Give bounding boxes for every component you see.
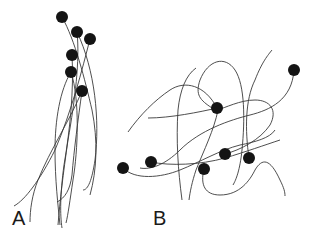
fiber-curve [57,91,82,202]
cell-body-dot [243,152,255,164]
fiber-curve [217,100,273,154]
panel-label-a: A [12,208,25,228]
cell-body-dot [211,102,223,114]
cell-body-dot [76,85,88,97]
cell-body-dot [117,162,129,174]
fiber-curve [77,32,97,190]
cell-body-dot [66,49,78,61]
neuron-diagram [0,0,310,236]
cell-body-dot [145,156,157,168]
cell-body-dot [198,163,210,175]
cell-body-dot [288,64,300,76]
figure-canvas: A B [0,0,310,236]
cell-body-dot [84,33,96,45]
cell-body-dot [65,66,77,78]
fiber-curve [14,39,90,206]
cell-body-dot [219,148,231,160]
cell-body-dot [71,26,83,38]
cell-body-dot [56,11,68,23]
panel-a [14,11,97,228]
fiber-curve [203,162,285,196]
panel-label-b: B [153,208,166,228]
panel-b [117,50,300,200]
fiber-curve [151,140,280,164]
fiber-curve [128,85,217,132]
fiber-curve [148,108,217,118]
